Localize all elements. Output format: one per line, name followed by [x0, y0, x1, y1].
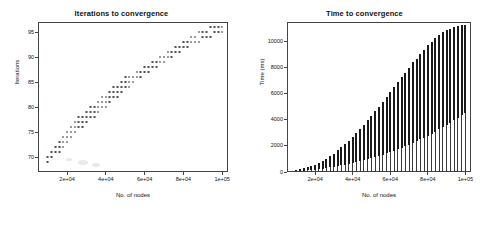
time-bar — [359, 129, 361, 161]
time-bar — [337, 150, 339, 166]
time-bar — [344, 144, 346, 165]
time-bar-base — [367, 159, 368, 172]
time-bar-base — [390, 152, 391, 172]
y-tick-mark — [35, 132, 38, 133]
time-bar-base — [405, 146, 406, 172]
iterations-panel-title: Iterations to convergence — [0, 9, 243, 18]
time-bar-base — [424, 138, 425, 172]
time-bar-base — [379, 156, 380, 172]
x-tick-mark — [183, 172, 184, 175]
time-bar-base — [454, 120, 455, 172]
time-bar — [401, 77, 403, 147]
compression-artifact — [66, 158, 72, 161]
time-bar — [363, 125, 365, 160]
time-bar-base — [315, 170, 316, 172]
time-bar — [393, 87, 395, 150]
data-point — [58, 151, 61, 154]
compression-artifact — [92, 163, 100, 167]
data-point — [213, 31, 216, 34]
data-point — [186, 46, 189, 49]
time-bar — [322, 161, 324, 169]
data-point — [93, 106, 96, 109]
time-bar-base — [450, 123, 451, 172]
time-bar — [404, 73, 406, 146]
x-tick-label: 8e+04 — [414, 176, 442, 182]
y-tick-mark — [35, 82, 38, 83]
time-bar-base — [352, 163, 353, 172]
x-tick-mark — [105, 172, 106, 175]
time-bar-base — [394, 151, 395, 172]
data-point — [58, 141, 61, 144]
time-bar — [427, 45, 429, 135]
time-bar — [461, 25, 463, 115]
time-panel: Time to convergence No. of nodes Time (m… — [243, 0, 486, 225]
y-tick-mark — [284, 93, 287, 94]
data-point — [213, 26, 216, 29]
time-bar-base — [431, 134, 432, 172]
time-bar-base — [333, 167, 334, 172]
time-bar-base — [337, 166, 338, 172]
time-bar — [423, 50, 425, 138]
time-bar-base — [375, 157, 376, 172]
data-point — [147, 71, 150, 74]
time-bar-base — [382, 155, 383, 172]
time-bar — [325, 159, 327, 168]
time-bar — [431, 42, 433, 134]
time-bar — [442, 32, 444, 127]
data-point — [151, 61, 154, 64]
time-bar-base — [330, 167, 331, 172]
time-bar — [389, 92, 391, 152]
data-point — [89, 111, 92, 114]
data-point — [58, 146, 61, 149]
time-bar-base — [461, 115, 462, 172]
time-bar-base — [326, 168, 327, 172]
y-tick-label: 75 — [14, 129, 34, 135]
time-bar-base — [442, 127, 443, 172]
time-bar — [457, 26, 459, 118]
time-bar-base — [412, 143, 413, 172]
y-tick-mark — [35, 57, 38, 58]
data-point — [186, 41, 189, 44]
time-bar-base — [416, 141, 417, 172]
time-bar-base — [397, 149, 398, 172]
time-bar-base — [427, 136, 428, 172]
time-bar — [352, 137, 354, 163]
x-tick-mark — [465, 172, 466, 175]
x-tick-label: 4e+04 — [92, 176, 120, 182]
time-x-axis-label: No. of nodes — [287, 192, 471, 198]
time-y-axis-label: Time (ms) — [259, 0, 265, 147]
time-bar — [464, 25, 466, 113]
x-tick-label: 8e+04 — [169, 176, 197, 182]
x-tick-mark — [390, 172, 391, 175]
time-bar — [453, 27, 455, 120]
time-bar-base — [465, 113, 466, 172]
y-tick-mark — [35, 157, 38, 158]
y-tick-label: 8000 — [261, 64, 283, 70]
time-bar — [367, 120, 369, 159]
time-bar — [348, 141, 350, 164]
x-tick-label: 2e+04 — [301, 176, 329, 182]
iterations-x-axis-label: No. of nodes — [38, 192, 228, 198]
time-bar — [374, 111, 376, 157]
x-tick-mark — [67, 172, 68, 175]
time-bar — [408, 68, 410, 145]
x-tick-label: 2e+04 — [53, 176, 81, 182]
x-tick-mark — [144, 172, 145, 175]
data-point — [209, 36, 212, 39]
time-bar — [333, 154, 335, 167]
time-bar — [340, 147, 342, 165]
y-tick-label: 6000 — [261, 90, 283, 96]
data-point — [151, 66, 154, 69]
time-bar — [412, 62, 414, 142]
time-bar-base — [311, 170, 312, 172]
time-bar-base — [363, 160, 364, 172]
time-bar-base — [386, 153, 387, 172]
time-bar-base — [401, 148, 402, 172]
time-bar-base — [409, 145, 410, 172]
time-bar-base — [322, 169, 323, 172]
y-tick-label: 4000 — [261, 116, 283, 122]
iterations-panel: Iterations to convergence No. of nodes I… — [0, 0, 243, 225]
y-tick-mark — [284, 172, 287, 173]
time-bar-base — [307, 170, 308, 172]
y-tick-label: 0 — [261, 169, 283, 175]
